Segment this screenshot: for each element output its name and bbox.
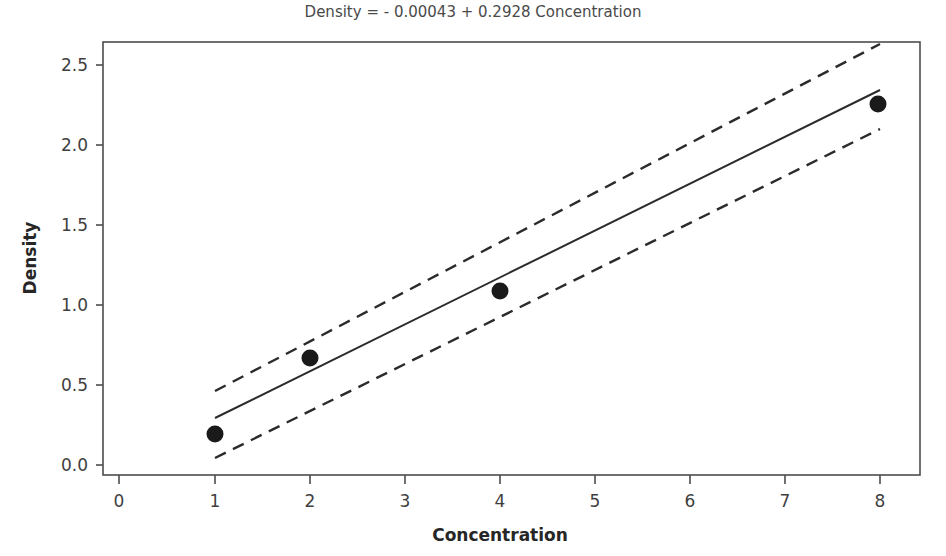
x-tick-label: 6 [685, 491, 696, 511]
data-point-marker [302, 350, 319, 367]
y-tick-label: 0.0 [61, 455, 88, 475]
x-tick-label: 7 [780, 491, 791, 511]
x-tick-label: 8 [875, 491, 886, 511]
y-tick-label: 2.5 [61, 55, 88, 75]
y-tick-label: 1.5 [61, 215, 88, 235]
fitted-line-plot: Density = - 0.00043 + 0.2928 Concentrati… [0, 0, 946, 556]
data-point-marker [492, 283, 509, 300]
x-tick-label: 3 [400, 491, 411, 511]
y-tick-label: 0.5 [61, 375, 88, 395]
x-axis-title: Concentration [432, 525, 568, 545]
data-point-marker [870, 96, 887, 113]
x-tick-label: 2 [305, 491, 316, 511]
data-point-marker [207, 426, 224, 443]
x-tick-label: 5 [590, 491, 601, 511]
x-tick-label: 0 [114, 491, 125, 511]
y-axis-title: Density [20, 222, 40, 295]
chart-title: Density = - 0.00043 + 0.2928 Concentrati… [305, 3, 642, 21]
x-tick-label: 1 [210, 491, 221, 511]
y-tick-label: 1.0 [61, 295, 88, 315]
x-tick-label: 4 [495, 491, 506, 511]
y-tick-label: 2.0 [61, 135, 88, 155]
